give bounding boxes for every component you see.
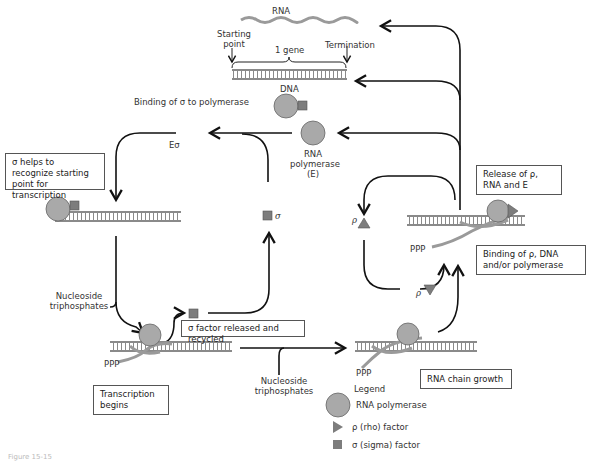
legend-square-icon [333,440,342,449]
dna-bottom-right [355,338,477,368]
rho-down-icon [424,285,436,295]
rho-up-label: ρ [352,215,357,225]
legend-polymerase-label: RNA polymerase [356,400,427,410]
nucleoside-left-2: triphosphates [45,301,113,311]
rna-label: RNA [272,6,290,16]
polymerase-bottom-left-icon [139,324,161,346]
nucleoside-left-1: Nucleoside [45,291,113,301]
sigma-released-icon [189,309,198,318]
legend-title: Legend [354,384,385,394]
dna-top [232,70,347,79]
sigma-released-box: σ factor released and recycled [181,320,305,337]
rho-down-label: ρ [416,288,421,298]
sigma-free-icon [263,211,272,220]
binding-rho-box: Binding of ρ, DNA and/or polymerase [476,245,586,275]
rna-polymerase-label-2: polymerase [290,159,336,169]
legend-circle-icon [326,393,350,417]
rna-polymerase-label-3: (E) [290,169,336,179]
sigma-bound-icon [298,101,307,110]
polymerase-e-sigma-icon [274,94,298,118]
figure-caption: Figure 15-15 [8,452,52,462]
nucleoside-mid-1: Nucleoside [250,376,318,386]
sigma-free-label: σ [275,211,281,221]
ppp-mid: PPP [356,368,371,378]
transcription-begins-box: Transcription begins [93,385,169,415]
dna-right [407,216,525,247]
release-rho-box: Release of ρ, RNA and E [476,165,562,195]
gene-brace [232,57,346,68]
legend-rho-label: ρ (rho) factor [352,422,408,432]
rna-chain-growth-box: RNA chain growth [420,369,512,389]
starting-label-2: point [214,39,254,49]
dna-bottom-left [110,342,232,362]
polymerase-right-icon [487,200,509,222]
sigma-helps-box: σ helps to recognize starting point for … [5,153,105,190]
ppp-right: PPP [410,244,425,254]
nucleoside-mid-2: triphosphates [250,386,318,396]
binding-sigma-label: Binding of σ to polymerase [134,97,249,107]
rho-up-icon [358,218,370,228]
dna-label: DNA [280,84,299,94]
sigma-left-icon [70,201,79,210]
polymerase-free-icon [301,121,325,145]
polymerase-bottom-right-icon [397,323,419,345]
starting-label-1: Starting [214,29,254,39]
termination-label: Termination [325,40,375,50]
ppp-left: PPP [104,359,119,369]
legend-triangle-icon [333,421,343,433]
gene-label: 1 gene [275,45,304,55]
rna-strand-top [241,18,357,23]
legend-sigma-label: σ (sigma) factor [352,440,420,450]
rna-polymerase-label-1: RNA [290,149,336,159]
e-sigma-label: Eσ [169,140,180,150]
dna-left [55,212,181,221]
